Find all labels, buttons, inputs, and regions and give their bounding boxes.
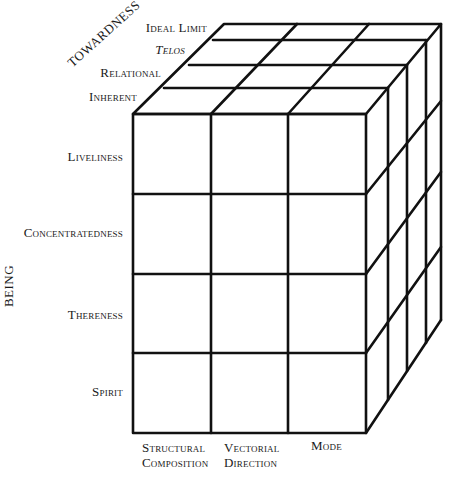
right-face	[366, 24, 441, 433]
row-label-thereness: Thereness	[68, 307, 123, 322]
row-label-spirit: Spirit	[92, 384, 123, 399]
cube-grid-diagram	[0, 0, 458, 486]
column-label-line2: Direction	[224, 455, 280, 470]
column-label-line1: Structural	[142, 440, 208, 455]
depth-label-ideal-limit: Ideal Limit	[146, 20, 207, 35]
axis-label-being: BEING	[1, 265, 17, 307]
column-label-structural-composition: Structural Composition	[142, 440, 208, 470]
row-label-concentratedness: Concentratedness	[24, 225, 123, 240]
column-label-line2: Composition	[142, 455, 208, 470]
depth-label-telos: Telos	[155, 42, 185, 57]
top-face	[133, 24, 441, 114]
column-label-line1: Mode	[311, 438, 342, 453]
column-label-line1: Vectorial	[224, 440, 280, 455]
depth-label-relational: Relational	[100, 65, 161, 80]
front-face	[133, 114, 366, 433]
column-label-mode: Mode	[311, 438, 342, 453]
column-label-vectorial-direction: Vectorial Direction	[224, 440, 280, 470]
row-label-liveliness: Liveliness	[68, 149, 123, 164]
depth-label-inherent: Inherent	[89, 89, 137, 104]
